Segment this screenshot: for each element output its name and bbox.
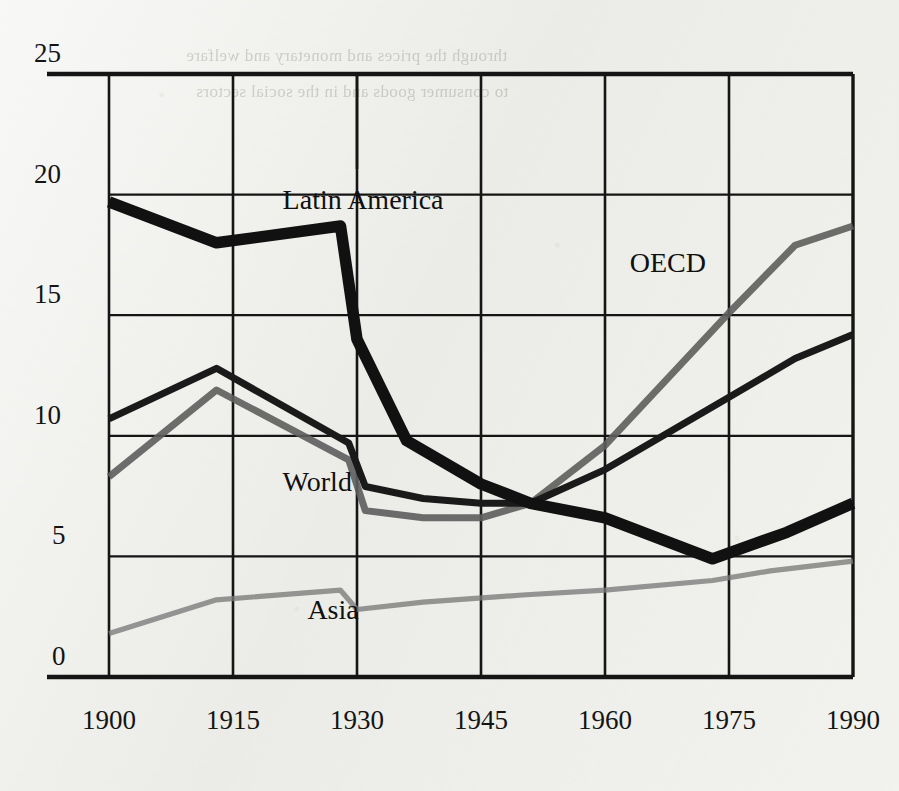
x-axis-tick-label-1915: 1915 [173, 705, 293, 736]
plot-area [0, 0, 899, 791]
x-axis-tick-label-1975: 1975 [669, 705, 789, 736]
x-axis-tick-label-1945: 1945 [421, 705, 541, 736]
x-axis-tick-label-1990: 1990 [793, 705, 899, 736]
y-axis-tick-label-25: 25 [34, 38, 61, 69]
y-axis-tick-label-10: 10 [34, 400, 61, 431]
series-annotation-asia: Asia [307, 594, 358, 626]
series-annotation-oecd: OECD [630, 247, 706, 279]
series-annotation-world: World [283, 466, 352, 498]
y-axis-tick-label-15: 15 [34, 279, 61, 310]
x-axis-tick-label-1960: 1960 [545, 705, 665, 736]
x-axis-tick-label-1900: 1900 [49, 705, 169, 736]
line-chart [0, 0, 899, 791]
x-axis-tick-label-1930: 1930 [297, 705, 417, 736]
y-axis-tick-label-0: 0 [52, 641, 66, 672]
series-annotation-latin-america: Latin America [283, 184, 444, 216]
grid-lines [47, 74, 853, 677]
y-axis-tick-label-5: 5 [52, 520, 66, 551]
y-axis-tick-label-20: 20 [34, 159, 61, 190]
